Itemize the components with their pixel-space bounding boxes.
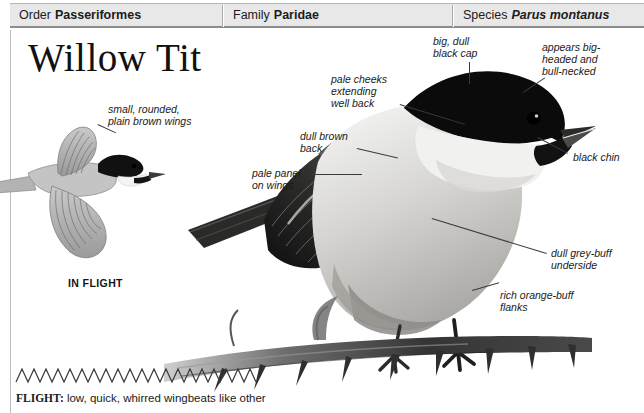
in-flight-caption: IN FLIGHT bbox=[68, 277, 123, 289]
family-label: Family bbox=[233, 8, 270, 22]
annotation-dull-brown-back: dull brown back bbox=[300, 131, 348, 155]
flight-path-zigzag bbox=[16, 367, 256, 384]
flight-note-keyword: FLIGHT: bbox=[16, 392, 64, 404]
taxonomy-header: Order Passeriformes Family Paridae Speci… bbox=[10, 3, 644, 28]
annotation-pale-panel: pale panel on wings bbox=[252, 168, 300, 192]
order-value: Passeriformes bbox=[55, 8, 141, 22]
field-guide-page: Order Passeriformes Family Paridae Speci… bbox=[0, 0, 644, 413]
annotation-pale-cheeks: pale cheeks extending well back bbox=[331, 74, 387, 109]
annotation-black-cap: big, dull black cap bbox=[433, 36, 477, 60]
order-label: Order bbox=[19, 8, 51, 22]
annotation-grey-buff-underside: dull grey-buff underside bbox=[551, 248, 612, 272]
flight-note: FLIGHT: low, quick, whirred wingbeats li… bbox=[16, 392, 266, 406]
species-label: Species bbox=[463, 8, 507, 22]
annotation-orange-buff-flanks: rich orange-buff flanks bbox=[500, 290, 574, 314]
leader-black-cap bbox=[469, 62, 470, 84]
species-value: Parus montanus bbox=[511, 8, 609, 22]
header-cell-species: Species Parus montanus bbox=[454, 4, 644, 26]
header-cell-order: Order Passeriformes bbox=[10, 4, 222, 26]
leader-pale-panel bbox=[310, 174, 362, 175]
annotation-big-headed: appears big- headed and bull-necked bbox=[542, 42, 600, 77]
flight-note-text: low, quick, whirred wingbeats like other bbox=[64, 392, 266, 404]
annotation-black-chin: black chin bbox=[573, 152, 620, 164]
family-value: Paridae bbox=[274, 8, 319, 22]
flight-bird-illustration bbox=[0, 128, 179, 263]
header-cell-family: Family Paridae bbox=[224, 4, 452, 26]
